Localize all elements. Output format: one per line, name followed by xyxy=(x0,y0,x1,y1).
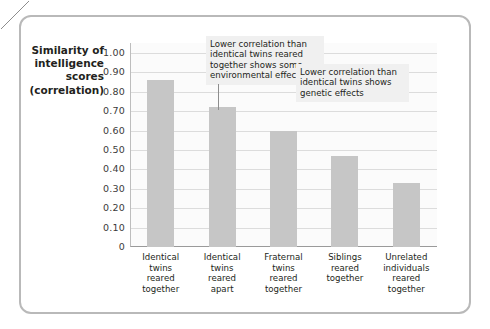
x-axis-tick-label-line: Unrelated xyxy=(375,252,437,263)
x-axis-tick-label: Identicaltwinsrearedapart xyxy=(191,252,253,294)
annotation-genetic-effect: Lower correlation than identical twins s… xyxy=(296,64,409,102)
x-axis-tick-label-line: reared xyxy=(253,273,315,284)
x-axis-tick-label-line: reared xyxy=(130,273,192,284)
x-axis-tick-label: Fraternaltwinsrearedtogether xyxy=(253,252,315,294)
y-axis-tick-label: 0.60 xyxy=(70,126,125,136)
x-axis-tick-label-line: Fraternal xyxy=(253,252,315,263)
x-axis-tick-label-line: reared xyxy=(191,273,253,284)
bar xyxy=(147,80,174,247)
y-axis-tick-label: 0 xyxy=(70,242,125,252)
y-axis-tick-label: 0.10 xyxy=(70,223,125,233)
leader-line-genetic xyxy=(0,0,30,30)
x-axis-tick-label-line: Identical xyxy=(130,252,192,263)
x-axis-tick-label-line: reared xyxy=(314,263,376,274)
y-axis-tick-label: 0.30 xyxy=(70,184,125,194)
x-axis-tick-label: Identicaltwinsrearedtogether xyxy=(130,252,192,294)
x-axis-tick-label-line: twins xyxy=(130,263,192,274)
y-axis-tick-label: 0.80 xyxy=(70,87,125,97)
y-axis-tick-label: 1.00 xyxy=(70,48,125,58)
bar xyxy=(270,131,297,247)
x-axis-tick-label: Siblingsrearedtogether xyxy=(314,252,376,284)
x-axis-tick-label-line: Identical xyxy=(191,252,253,263)
x-axis-tick-label-line: together xyxy=(130,284,192,295)
y-axis-tick-label: 0.20 xyxy=(70,203,125,213)
x-axis-tick-label-line: apart xyxy=(191,284,253,295)
y-axis-tick-label: 0.40 xyxy=(70,164,125,174)
x-axis-tick-label: Unrelatedindividualsrearedtogether xyxy=(375,252,437,294)
y-axis-tick-label: 0.90 xyxy=(70,67,125,77)
y-axis-tick-label: 0.50 xyxy=(70,145,125,155)
bar xyxy=(209,107,236,247)
x-axis-tick-labels: IdenticaltwinsrearedtogetherIdenticaltwi… xyxy=(130,252,437,302)
y-axis-tick-labels: 1.000.900.800.700.600.500.400.300.200.10… xyxy=(70,43,125,258)
x-axis-tick-label-line: twins xyxy=(253,263,315,274)
x-axis-tick-label-line: together xyxy=(253,284,315,295)
bar xyxy=(331,156,358,247)
y-axis-tick-label: 0.70 xyxy=(70,106,125,116)
x-axis-tick-label-line: together xyxy=(375,284,437,295)
x-axis-tick-label-line: individuals xyxy=(375,263,437,274)
bar-chart: Similarity ofintelligencescores(correlat… xyxy=(0,0,490,329)
leader-line-environmental xyxy=(218,84,219,110)
x-axis-tick-label-line: twins xyxy=(191,263,253,274)
x-axis-tick-label-line: reared xyxy=(375,273,437,284)
x-axis-tick-label-line: together xyxy=(314,273,376,284)
gridline xyxy=(131,111,437,112)
x-axis-tick-label-line: Siblings xyxy=(314,252,376,263)
bar xyxy=(393,183,420,247)
